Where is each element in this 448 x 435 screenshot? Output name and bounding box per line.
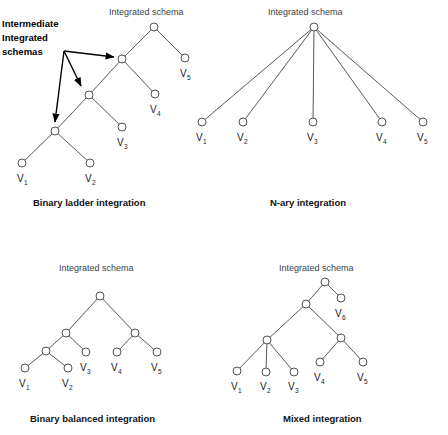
node-intermediate-3: [118, 55, 126, 63]
panel-caption: N-ary integration: [270, 197, 346, 208]
panel-binary-balanced: Integrated schema Binary balanced integr…: [19, 263, 162, 424]
node-leaf-v4: [316, 358, 324, 366]
node-leaf-v4: [113, 348, 121, 356]
panel-n-ary: Integrated schema N-ary integration V 1 …: [196, 7, 428, 208]
leaf-sub-v2: 2: [267, 387, 271, 394]
leaf-sub-v1: 1: [238, 387, 242, 394]
leaf-label-v4: V: [376, 132, 383, 143]
node-root: [150, 23, 158, 31]
annotation-label: Intermediate Integrated schemas: [2, 18, 59, 57]
leaf-sub-v1: 1: [26, 384, 30, 391]
leaf-sub-v5: 5: [187, 74, 191, 81]
leaf-sub-v4: 4: [118, 368, 122, 375]
node-intermediate-2: [85, 91, 93, 99]
leaf-label-v4: V: [314, 372, 321, 383]
leaf-sub-v4: 4: [321, 378, 325, 385]
node-root: [310, 23, 318, 31]
leaf-label-v5: V: [357, 372, 364, 383]
leaf-label-v2: V: [237, 132, 244, 143]
node-leaf-v5: [181, 54, 189, 62]
leaf-label-v5: V: [180, 68, 187, 79]
figure-container: Integrated schema Binary ladder integrat…: [0, 0, 448, 435]
panel-mixed: Integrated schema Mixed integration V 1 …: [231, 263, 368, 424]
node-intermediate-1: [51, 127, 59, 135]
leaf-label-v1: V: [17, 173, 24, 184]
leaf-sub-v5: 5: [424, 138, 428, 145]
node-root: [96, 292, 104, 300]
leaf-label-v2: V: [260, 381, 267, 392]
leaf-sub-v5: 5: [364, 378, 368, 385]
node-leaf-v1: [233, 367, 241, 375]
leaf-labels-binary-ladder: V 1 V 2 V 3 V 4 V 5: [17, 68, 191, 186]
leaf-label-v3: V: [288, 381, 295, 392]
annotation-line-2: Integrated: [2, 32, 48, 43]
leaf-sub-v2: 2: [244, 138, 248, 145]
leaf-label-v4: V: [111, 362, 118, 373]
node-leaf-v5: [359, 358, 367, 366]
leaf-label-v2: V: [85, 173, 92, 184]
panel-title: Integrated schema: [279, 263, 354, 273]
leaf-sub-v2: 2: [92, 179, 96, 186]
leaf-sub-v4: 4: [383, 138, 387, 145]
leaf-sub-v4: 4: [157, 110, 161, 117]
leaf-label-v6: V: [335, 308, 342, 319]
edges-n-ary: [202, 27, 423, 122]
leaf-label-v3: V: [307, 132, 314, 143]
leaf-sub-v3: 3: [124, 143, 128, 150]
node-leaf-v2: [86, 159, 94, 167]
node-intermediate-leftleft: [42, 347, 50, 355]
leaf-labels-mixed: V 1 V 2 V 3 V 4 V 5 V 6: [231, 308, 368, 394]
annotation-line-3: schemas: [2, 46, 43, 57]
node-leaf-v2: [64, 364, 72, 372]
leaf-sub-v3: 3: [295, 387, 299, 394]
leaf-sub-v3: 3: [87, 368, 91, 375]
node-leaf-v6: [337, 294, 345, 302]
node-intermediate-binary: [337, 334, 345, 342]
leaf-labels-n-ary: V 1 V 2 V 3 V 4 V 5: [196, 132, 428, 145]
node-leaf-v1: [18, 159, 26, 167]
panel-caption: Mixed integration: [283, 413, 362, 424]
leaf-label-v3: V: [80, 362, 87, 373]
node-leaf-v1: [21, 364, 29, 372]
edges-binary-ladder: [22, 27, 185, 163]
node-leaf-v4: [151, 90, 159, 98]
panel-binary-ladder: Integrated schema Binary ladder integrat…: [2, 7, 191, 208]
node-leaf-v2: [262, 368, 270, 376]
node-intermediate-nary: [263, 336, 271, 344]
leaf-label-v1: V: [19, 378, 26, 389]
node-intermediate-left: [302, 300, 310, 308]
leaf-sub-v6: 6: [342, 314, 346, 321]
node-leaf-v3: [290, 368, 298, 376]
leaf-sub-v1: 1: [203, 138, 207, 145]
node-leaf-v3: [309, 118, 317, 126]
node-leaf-v5: [153, 348, 161, 356]
panel-title: Integrated schema: [59, 263, 134, 273]
leaf-label-v2: V: [62, 378, 69, 389]
leaf-label-v5: V: [151, 362, 158, 373]
annotation-line-1: Intermediate: [2, 18, 59, 29]
node-leaf-v4: [378, 118, 386, 126]
node-intermediate-right: [131, 329, 139, 337]
leaf-labels-binary-balanced: V 1 V 2 V 3 V 4 V 5: [19, 362, 162, 391]
node-leaf-v5: [419, 118, 427, 126]
leaf-sub-v3: 3: [314, 138, 318, 145]
leaf-sub-v1: 1: [24, 179, 28, 186]
panel-caption: Binary ladder integration: [33, 197, 146, 208]
panel-title: Integrated schema: [109, 7, 184, 17]
panel-title: Integrated schema: [268, 7, 343, 17]
leaf-sub-v2: 2: [69, 384, 73, 391]
leaf-sub-v5: 5: [158, 368, 162, 375]
panel-caption: Binary balanced integration: [30, 413, 155, 424]
diagram-canvas: Integrated schema Binary ladder integrat…: [0, 0, 448, 435]
leaf-label-v4: V: [150, 104, 157, 115]
node-leaf-v3: [118, 123, 126, 131]
node-root: [321, 278, 329, 286]
node-leaf-v2: [239, 118, 247, 126]
node-leaf-v3: [82, 348, 90, 356]
leaf-label-v1: V: [196, 132, 203, 143]
leaf-label-v1: V: [231, 381, 238, 392]
node-intermediate-left: [62, 329, 70, 337]
leaf-label-v3: V: [117, 137, 124, 148]
leaf-label-v5: V: [417, 132, 424, 143]
node-leaf-v1: [198, 118, 206, 126]
